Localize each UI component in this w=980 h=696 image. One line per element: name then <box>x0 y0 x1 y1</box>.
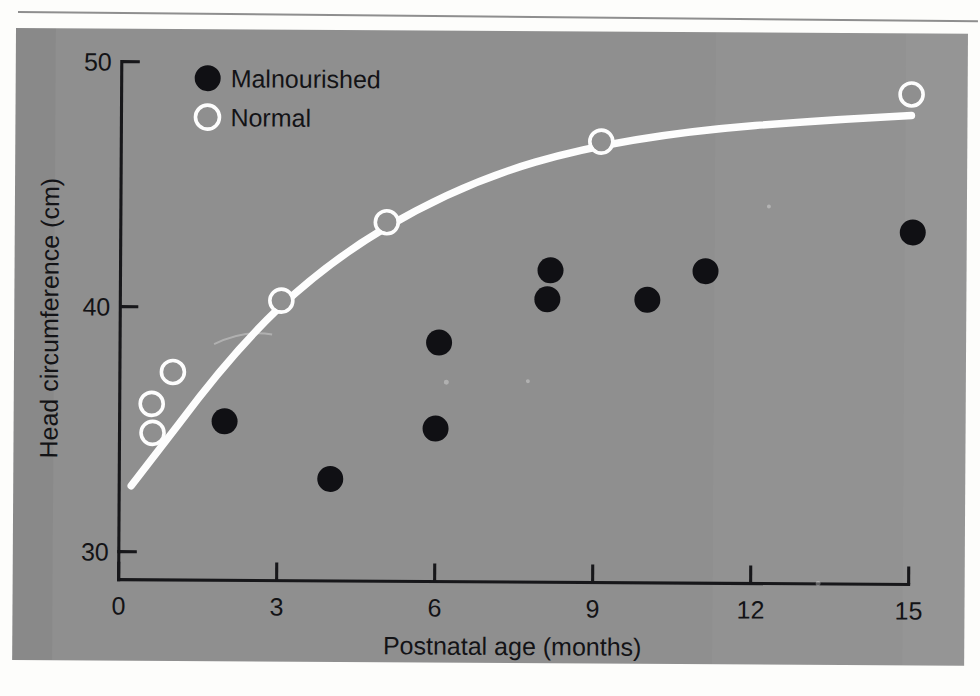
scan-speck <box>526 379 530 383</box>
legend-marker-normal <box>195 105 219 129</box>
legend-label-malnourished: Malnourished <box>231 64 381 93</box>
x-axis-title: Postnatal age (months) <box>383 631 642 661</box>
scan-speck <box>444 380 449 385</box>
malnourished-markers <box>211 215 926 495</box>
x-tick-label-0: 0 <box>111 592 125 620</box>
malnourished-point <box>534 286 560 312</box>
malnourished-point <box>692 258 718 284</box>
y-tick-label-50: 50 <box>84 47 112 75</box>
scan-speck <box>767 205 771 209</box>
x-tick-label-3: 3 <box>269 593 283 621</box>
malnourished-point <box>634 287 660 313</box>
page-divider-rule <box>18 11 978 22</box>
figure-panel: 50 40 30 0 3 6 9 12 15 Postnatal age (mo… <box>12 28 968 666</box>
malnourished-point <box>212 408 238 434</box>
x-tick-label-12: 12 <box>736 595 764 623</box>
legend-label-normal: Normal <box>230 103 311 131</box>
malnourished-point <box>426 330 452 356</box>
malnourished-point <box>317 466 343 492</box>
chart-canvas: 50 40 30 0 3 6 9 12 15 Postnatal age (mo… <box>12 28 968 666</box>
y-tick-label-30: 30 <box>81 537 109 565</box>
malnourished-point <box>900 219 926 245</box>
y-tick-label-40: 40 <box>82 292 110 320</box>
x-tick-label-15: 15 <box>894 596 922 624</box>
malnourished-point <box>537 257 563 283</box>
x-axis-line <box>119 580 909 585</box>
normal-markers <box>140 78 923 449</box>
scan-speck <box>816 581 821 586</box>
x-tick-label-6: 6 <box>427 594 441 622</box>
normal-growth-curve <box>131 111 911 491</box>
y-axis-title: Head circumference (cm) <box>34 178 64 459</box>
malnourished-point <box>422 415 448 441</box>
x-tick-label-9: 9 <box>585 594 599 622</box>
legend-marker-malnourished <box>195 65 221 91</box>
